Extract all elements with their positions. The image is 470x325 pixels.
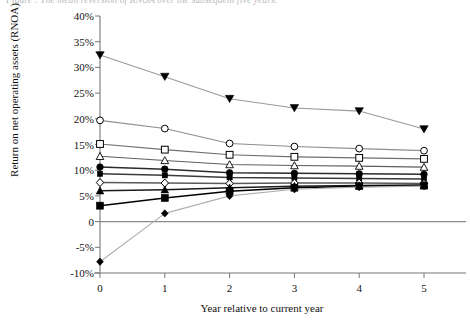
x-tick-label: 2 [210, 282, 250, 294]
x-tick-label: 0 [80, 282, 120, 294]
x-tick-label: 3 [274, 282, 314, 294]
chart-series [97, 182, 428, 265]
x-tick-label: 1 [145, 282, 185, 294]
x-tick-label: 4 [339, 282, 379, 294]
x-tick-label: 5 [404, 282, 444, 294]
axes-layer [94, 16, 466, 278]
chart-series [96, 52, 428, 133]
chart-canvas [0, 0, 470, 325]
series-layer [96, 52, 428, 266]
chart-series [96, 153, 428, 171]
chart-figure: Figure : The mean reversion of RNOA over… [0, 0, 470, 325]
